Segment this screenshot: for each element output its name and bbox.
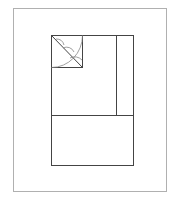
main-rectangle: [52, 36, 134, 166]
diagonal-line: [52, 36, 83, 68]
diagram-canvas: [0, 0, 179, 203]
corner-square: [52, 36, 83, 68]
